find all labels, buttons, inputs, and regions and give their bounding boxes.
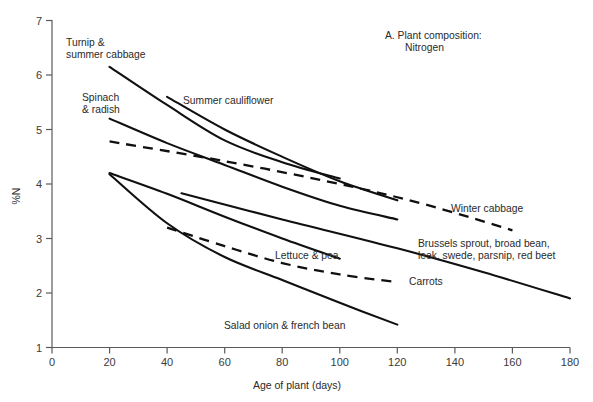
y-tick-label-7: 7 [36,15,42,27]
curve-label-lettuce-pea: Lettuce & pea [275,250,339,262]
series-layer [110,67,570,325]
series-line-0 [110,67,340,179]
series-line-3 [110,141,513,230]
x-tick-label-0: 0 [49,356,55,368]
x-tick-label-20: 20 [103,356,115,368]
curve-label-brussels-group: Brussels sprout, broad bean, leek, swede… [418,238,555,261]
x-tick-label-80: 80 [276,356,288,368]
panel-title-line2: Nitrogen [405,42,444,54]
x-tick-label-180: 180 [561,356,579,368]
curve-label-summer-cauliflower: Summer cauliflower [183,95,273,107]
curve-label-turnip: Turnip & summer cabbage [66,37,146,60]
curve-label-spinach: Spinach & radish [82,92,120,115]
x-tick-label-160: 160 [503,356,521,368]
curve-label-salad-onion: Salad onion & french bean [224,320,345,332]
x-tick-label-140: 140 [446,356,464,368]
y-tick-label-5: 5 [36,124,42,136]
y-tick-label-2: 2 [36,287,42,299]
y-tick-label-3: 3 [36,233,42,245]
x-axis-title: Age of plant (days) [253,379,341,391]
chart-svg: 7 6 5 4 3 2 1 0 20 40 60 80 100 120 140 … [0,0,593,402]
curve-label-carrots: Carrots [409,276,443,288]
x-tick-label-120: 120 [388,356,406,368]
x-tick-group [52,348,570,354]
x-tick-label-60: 60 [219,356,231,368]
y-axis-title: %N [10,188,22,205]
series-line-1 [110,119,398,220]
panel-title-line1: A. Plant composition: [385,30,482,42]
y-tick-label-4: 4 [36,178,42,190]
series-line-7 [110,174,398,324]
x-tick-label-100: 100 [331,356,349,368]
series-line-2 [167,97,397,201]
y-tick-group [46,21,52,348]
x-tick-label-40: 40 [161,356,173,368]
chart-figure: 7 6 5 4 3 2 1 0 20 40 60 80 100 120 140 … [0,0,593,402]
y-tick-label-6: 6 [36,69,42,81]
curve-label-winter-cabbage: Winter cabbage [451,203,523,215]
y-tick-label-1: 1 [36,342,42,354]
